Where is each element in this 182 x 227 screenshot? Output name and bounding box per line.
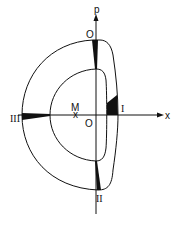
top-origin-label: O [86,29,94,40]
point-m-label: M [71,102,79,113]
center-origin-label: O [85,118,93,129]
shaded-region-3 [22,113,50,120]
shaded-region-1 [107,95,118,115]
x-axis-arrow-icon [157,113,164,118]
region-2-label: II [96,193,103,204]
phase-diagram: x p x O O M I II III [0,0,182,227]
shaded-region-top [92,40,98,69]
region-1-label: I [121,103,124,114]
x-axis-label: x [165,110,170,121]
p-axis-label: p [94,4,100,15]
p-axis-arrow-icon [94,14,99,21]
region-3-label: III [10,113,20,124]
